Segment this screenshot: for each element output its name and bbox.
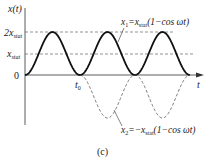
t0-label: t0	[75, 79, 81, 91]
ytick-xstat: xstat	[6, 48, 20, 60]
ytick-zero: 0	[14, 70, 19, 81]
x1-leader-line	[118, 28, 124, 42]
t-axis-arrow-icon	[196, 73, 204, 78]
figure-caption: (c)	[97, 146, 108, 158]
ytick-2xstat: 2xstat	[4, 27, 22, 39]
x1-equation: x1=xstat(1−cos ωt)	[120, 17, 189, 28]
curve-x2	[80, 75, 190, 118]
x2-equation: x2=−xstat(1−cos ωt)	[120, 125, 195, 136]
curve-x1	[25, 32, 190, 75]
t-axis-label: t	[197, 79, 200, 90]
x2-leader-line	[114, 110, 122, 126]
figure: x(t) 2xstat xstat 0 t0 t x1=xstat(1−cos …	[0, 0, 210, 161]
y-axis-label: x(t)	[7, 3, 23, 15]
